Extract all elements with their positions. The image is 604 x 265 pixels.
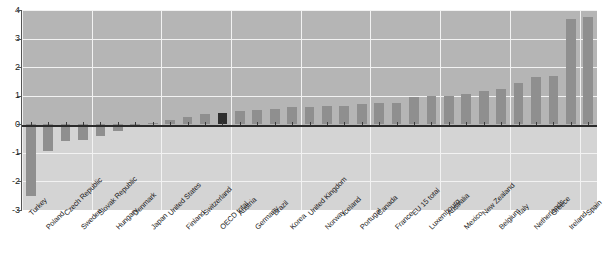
y-axis-tickmark <box>17 181 22 182</box>
y-axis-tickmark <box>17 210 22 211</box>
zero-baseline <box>22 125 597 127</box>
bar[interactable] <box>26 124 36 195</box>
gridline-vertical <box>301 10 302 210</box>
plot-area <box>22 10 597 210</box>
gridline-vertical <box>510 10 511 210</box>
gridline-vertical <box>370 10 371 210</box>
y-axis-tickmark <box>17 96 22 97</box>
gridline-vertical <box>22 10 23 210</box>
bar[interactable] <box>479 91 489 124</box>
bar[interactable] <box>427 96 437 125</box>
gridline-vertical <box>440 10 441 210</box>
y-axis-tickmark <box>17 124 22 125</box>
bar[interactable] <box>461 94 471 124</box>
y-axis-tickmark <box>17 153 22 154</box>
x-axis-label: Korea <box>288 211 308 231</box>
bar[interactable] <box>43 124 53 151</box>
gridline-vertical <box>580 10 581 210</box>
bar[interactable] <box>566 19 576 125</box>
bar[interactable] <box>496 89 506 125</box>
gridline-vertical <box>161 10 162 210</box>
bar[interactable] <box>531 77 541 124</box>
bar[interactable] <box>549 76 559 125</box>
y-axis-tickmark <box>17 39 22 40</box>
bar[interactable] <box>444 96 454 125</box>
y-axis-labels: -3-2-101234 <box>0 0 20 210</box>
y-axis-tickmark <box>17 67 22 68</box>
x-axis-labels: TurkeyPolandCzech RepublicSwedenSlovak R… <box>22 211 597 265</box>
bar[interactable] <box>409 97 419 124</box>
x-axis-label: Japan <box>149 211 169 231</box>
bar[interactable] <box>583 17 593 124</box>
y-axis-tickmark <box>17 10 22 11</box>
bar[interactable] <box>514 83 524 124</box>
gridline-vertical <box>231 10 232 210</box>
